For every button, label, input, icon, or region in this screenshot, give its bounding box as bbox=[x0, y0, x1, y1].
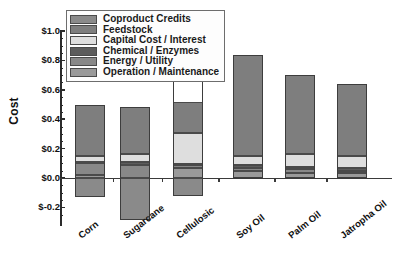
bar-segment[interactable] bbox=[337, 168, 367, 171]
chart-figure: Cost $-0.2$0.0$0.2$0.4$0.6$0.8$1.0 CornS… bbox=[0, 0, 396, 274]
bar-segment[interactable] bbox=[173, 102, 203, 134]
bar-segment[interactable] bbox=[337, 171, 367, 174]
bar-segment[interactable] bbox=[233, 168, 263, 171]
bar-segment[interactable] bbox=[285, 75, 315, 154]
bar-segment[interactable] bbox=[233, 55, 263, 156]
bar-segment[interactable] bbox=[120, 154, 150, 162]
legend-label: Coproduct Credits bbox=[103, 14, 191, 25]
legend-swatch bbox=[70, 15, 97, 24]
bar-segment[interactable] bbox=[285, 167, 315, 169]
legend-swatch bbox=[70, 25, 97, 34]
legend-item[interactable]: Operation / Maintenance bbox=[70, 67, 219, 78]
bar-segment-negative[interactable] bbox=[173, 178, 203, 196]
legend-label: Operation / Maintenance bbox=[103, 67, 219, 78]
bar-segment-negative[interactable] bbox=[75, 178, 105, 197]
bar-segment[interactable] bbox=[173, 133, 203, 164]
bar-segment[interactable] bbox=[75, 105, 105, 156]
bar-segment[interactable] bbox=[120, 107, 150, 154]
bar-segment[interactable] bbox=[75, 163, 105, 175]
legend-item[interactable]: Coproduct Credits bbox=[70, 14, 219, 25]
bar-segment[interactable] bbox=[75, 156, 105, 162]
legend-swatch bbox=[70, 68, 97, 77]
bar-segment[interactable] bbox=[173, 164, 203, 166]
bar-segment[interactable] bbox=[75, 162, 105, 164]
bar-segment[interactable] bbox=[233, 165, 263, 168]
bar-segment[interactable] bbox=[337, 84, 367, 156]
bar-segment[interactable] bbox=[285, 169, 315, 173]
bar-segment[interactable] bbox=[233, 156, 263, 165]
chart-legend: Coproduct CreditsFeedstockCapital Cost /… bbox=[66, 10, 225, 82]
bar-segment[interactable] bbox=[120, 162, 150, 164]
bar-segment[interactable] bbox=[337, 173, 367, 177]
legend-swatch bbox=[70, 36, 97, 45]
legend-swatch bbox=[70, 57, 97, 66]
bar-segment[interactable] bbox=[285, 154, 315, 167]
legend-swatch bbox=[70, 47, 97, 56]
bar-segment[interactable] bbox=[285, 173, 315, 178]
bar-segment[interactable] bbox=[233, 171, 263, 178]
bar-segment[interactable] bbox=[173, 168, 203, 178]
bar-segment[interactable] bbox=[120, 165, 150, 178]
bar-segment[interactable] bbox=[337, 156, 367, 168]
